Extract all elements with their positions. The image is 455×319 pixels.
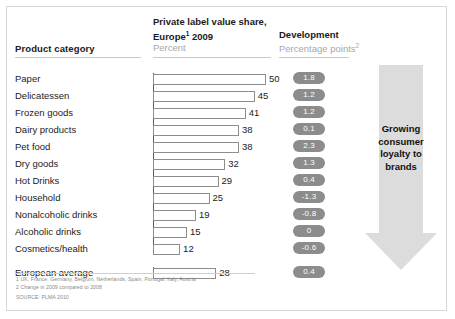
- bar-track: [153, 176, 219, 187]
- value-bar: [153, 125, 239, 136]
- development-pill: 0: [293, 225, 325, 237]
- category-label: Alcoholic drinks: [15, 226, 81, 237]
- bar-track: [153, 142, 239, 153]
- bar-value-label: 25: [213, 192, 224, 203]
- development-pill: -0.8: [293, 208, 325, 220]
- bar-value-label: 45: [258, 90, 269, 101]
- bar-value-label: 29: [222, 175, 233, 186]
- growth-arrow: Growing consumer loyalty to brands: [365, 65, 437, 270]
- arrow-label-line2: consumer: [378, 136, 423, 147]
- bar-track: [153, 210, 196, 221]
- bar-track: [153, 108, 246, 119]
- arrow-label-line3: loyalty to: [380, 148, 422, 159]
- development-pill: 1.8: [293, 72, 325, 84]
- value-bar: [153, 210, 196, 221]
- arrow-label-line4: brands: [385, 161, 417, 172]
- value-bar: [153, 176, 219, 187]
- development-pill: 1.3: [293, 157, 325, 169]
- bar-value-label: 12: [183, 243, 194, 254]
- bar-track: [153, 74, 266, 85]
- development-pill: -1.3: [293, 191, 325, 203]
- development-pill: 1.2: [293, 106, 325, 118]
- bar-track: [153, 159, 225, 170]
- bar-track: [153, 227, 187, 238]
- source-note: SOURCE: PLMA 2010: [16, 294, 69, 300]
- value-bar: [153, 91, 255, 102]
- footnote-2: 2 Change in 2009 compared to 2008: [16, 284, 102, 290]
- category-label: Nonalcoholic drinks: [15, 209, 97, 220]
- category-label: Pet food: [15, 141, 50, 152]
- arrow-label: Growing consumer loyalty to brands: [365, 123, 437, 173]
- bar-track: [153, 193, 210, 204]
- category-label: Hot Drinks: [15, 175, 59, 186]
- category-label: Frozen goods: [15, 107, 73, 118]
- bar-value-label: 38: [242, 124, 253, 135]
- bar-value-label: 38: [242, 141, 253, 152]
- development-pill: 0.1: [293, 123, 325, 135]
- chart-frame: Product category Private label value sha…: [6, 6, 447, 311]
- bar-value-label: 50: [269, 73, 280, 84]
- development-pill: 0.4: [293, 266, 325, 278]
- arrow-label-line1: Growing: [382, 123, 421, 134]
- value-bar: [153, 108, 246, 119]
- footnote-1: 1 UK, France, Germany, Belgium, Netherla…: [16, 276, 196, 282]
- bar-value-label: 19: [199, 209, 210, 220]
- category-label: Paper: [15, 73, 40, 84]
- bar-value-label: 41: [249, 107, 260, 118]
- bar-value-label: 15: [190, 226, 201, 237]
- development-pill: 1.2: [293, 89, 325, 101]
- bar-value-label: 28: [219, 267, 230, 278]
- bar-value-label: 32: [228, 158, 239, 169]
- arrow-head-icon: [365, 233, 437, 270]
- value-bar: [153, 74, 266, 85]
- bar-track: [153, 91, 255, 102]
- development-pill: 2.3: [293, 140, 325, 152]
- category-label: Dry goods: [15, 158, 58, 169]
- value-bar: [153, 227, 187, 238]
- bar-track: [153, 244, 180, 255]
- development-pill: 0.4: [293, 174, 325, 186]
- value-bar: [153, 244, 180, 255]
- value-bar: [153, 193, 210, 204]
- category-label: Cosmetics/health: [15, 243, 88, 254]
- footnote-divider: [15, 273, 255, 274]
- development-pill: -0.6: [293, 242, 325, 254]
- value-bar: [153, 159, 225, 170]
- category-label: Delicatessen: [15, 90, 69, 101]
- bar-track: [153, 125, 239, 136]
- category-label: Dairy products: [15, 124, 76, 135]
- value-bar: [153, 142, 239, 153]
- category-label: Household: [15, 192, 60, 203]
